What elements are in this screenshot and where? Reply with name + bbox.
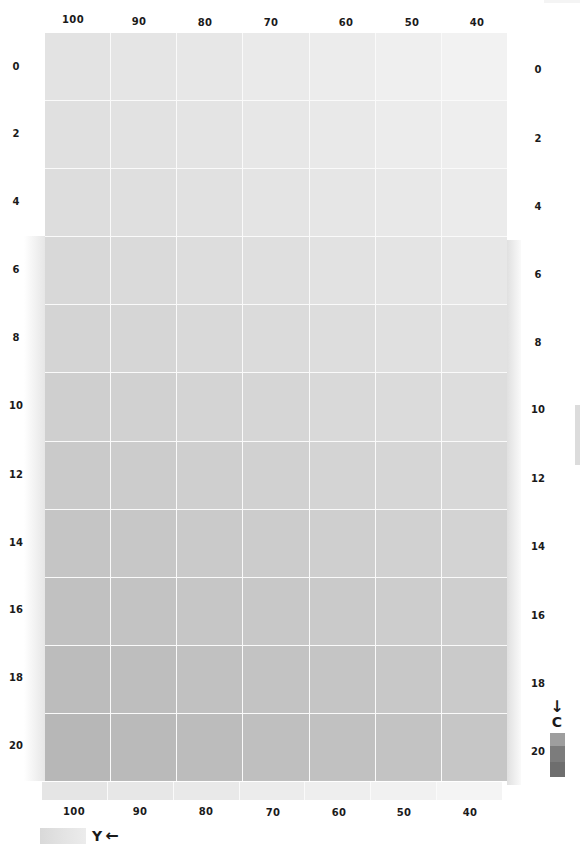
left-axis-label: 8 — [4, 332, 28, 343]
swatch-cell — [45, 714, 110, 781]
legend-y: Y ← — [40, 826, 119, 845]
swatch-cell — [111, 510, 176, 577]
top-axis-label: 50 — [379, 17, 445, 28]
top-axis-label: 90 — [106, 16, 172, 27]
left-axis-label: 10 — [4, 400, 28, 411]
right-axis-label: 18 — [526, 678, 550, 689]
swatch-cell — [177, 101, 242, 168]
bottom-axis-label: 90 — [107, 806, 173, 817]
swatch-cell — [177, 510, 242, 577]
right-axis-label: 8 — [526, 337, 550, 348]
swatch-cell — [243, 578, 308, 645]
arrow-left-icon: ← — [105, 826, 118, 845]
swatch-cell — [376, 373, 441, 440]
swatch-grid — [45, 33, 507, 781]
swatch-cell — [111, 714, 176, 781]
left-axis-label: 14 — [4, 537, 28, 548]
swatch-cell — [111, 101, 176, 168]
swatch-cell — [177, 373, 242, 440]
swatch-cell — [45, 169, 110, 236]
swatch-cell — [376, 305, 441, 372]
swatch-cell — [177, 33, 242, 100]
swatch-cell — [243, 646, 308, 713]
swatch-cell — [111, 442, 176, 509]
right-axis-label: 20 — [526, 746, 550, 757]
swatch-cell — [177, 646, 242, 713]
swatch-cell — [243, 305, 308, 372]
bottom-strip-cell — [240, 782, 305, 800]
swatch-cell — [45, 373, 110, 440]
swatch-cell — [310, 510, 375, 577]
legend-c-label: C — [552, 714, 562, 730]
swatch-cell — [243, 237, 308, 304]
swatch-cell — [177, 237, 242, 304]
left-axis-label: 20 — [4, 740, 28, 751]
legend-c-swatch — [550, 733, 565, 777]
swatch-cell — [45, 646, 110, 713]
left-axis-label: 0 — [4, 61, 28, 72]
swatch-cell — [243, 442, 308, 509]
right-axis-label: 4 — [526, 201, 550, 212]
bottom-strip-cell — [108, 782, 173, 800]
right-margin-mark — [575, 405, 580, 465]
right-axis-label: 14 — [526, 541, 550, 552]
swatch-cell — [111, 305, 176, 372]
top-edge-mark — [544, 0, 580, 3]
swatch-cell — [45, 578, 110, 645]
left-edge-strip — [24, 236, 45, 781]
swatch-cell — [45, 237, 110, 304]
swatch-cell — [45, 101, 110, 168]
swatch-cell — [376, 33, 441, 100]
swatch-cell — [376, 646, 441, 713]
swatch-cell — [243, 101, 308, 168]
swatch-cell — [45, 442, 110, 509]
swatch-cell — [376, 169, 441, 236]
bottom-axis-label: 40 — [437, 807, 503, 818]
left-axis-label: 16 — [4, 604, 28, 615]
swatch-cell — [442, 169, 507, 236]
swatch-cell — [376, 101, 441, 168]
swatch-cell — [310, 714, 375, 781]
top-axis-label: 60 — [313, 17, 379, 28]
right-axis-label: 6 — [526, 269, 550, 280]
swatch-cell — [310, 646, 375, 713]
swatch-cell — [243, 33, 308, 100]
bottom-axis-label: 100 — [41, 806, 107, 817]
swatch-cell — [442, 714, 507, 781]
bottom-axis-label: 60 — [306, 807, 372, 818]
swatch-cell — [177, 714, 242, 781]
swatch-cell — [111, 169, 176, 236]
bottom-axis-label: 70 — [240, 807, 306, 818]
swatch-cell — [310, 237, 375, 304]
top-axis-label: 80 — [172, 17, 238, 28]
swatch-cell — [45, 510, 110, 577]
swatch-cell — [243, 373, 308, 440]
bottom-strip-cell — [42, 782, 107, 800]
swatch-cell — [111, 578, 176, 645]
swatch-cell — [442, 237, 507, 304]
right-axis-label: 16 — [526, 610, 550, 621]
bottom-strip-cell — [371, 782, 436, 800]
swatch-cell — [376, 237, 441, 304]
swatch-cell — [376, 714, 441, 781]
swatch-cell — [111, 646, 176, 713]
swatch-cell — [442, 646, 507, 713]
swatch-cell — [310, 578, 375, 645]
swatch-cell — [177, 305, 242, 372]
swatch-cell — [442, 373, 507, 440]
swatch-cell — [376, 578, 441, 645]
right-edge-strip — [507, 240, 521, 785]
right-axis-label: 0 — [526, 64, 550, 75]
legend-y-swatch — [40, 828, 86, 844]
right-axis-label: 12 — [526, 473, 550, 484]
swatch-cell — [45, 33, 110, 100]
swatch-cell — [111, 33, 176, 100]
top-axis-label: 40 — [444, 17, 510, 28]
bottom-strip — [42, 782, 502, 800]
swatch-cell — [310, 305, 375, 372]
swatch-cell — [310, 442, 375, 509]
swatch-cell — [310, 33, 375, 100]
top-axis-label: 70 — [238, 17, 304, 28]
swatch-cell — [442, 510, 507, 577]
left-axis-label: 6 — [4, 264, 28, 275]
